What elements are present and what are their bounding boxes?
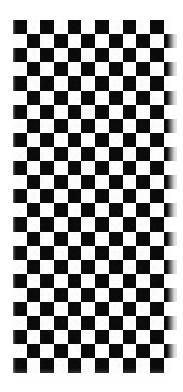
checker-cell-dark [136,344,150,358]
checker-cell-dark [136,260,150,274]
checker-cell-light [40,62,54,76]
checker-cell-light [13,175,27,189]
checker-cell-light [54,302,68,316]
checker-cell-light [109,133,123,147]
checker-cell-light [164,274,178,288]
checker-cell-light [136,358,150,372]
checker-cell-light [95,260,109,274]
checker-cell-light [150,288,164,302]
checker-cell-light [123,203,137,217]
checker-cell-light [27,302,41,316]
checker-cell-light [40,34,54,48]
checker-cell-light [81,246,95,260]
checker-cell-light [13,62,27,76]
checker-cell-dark [54,62,68,76]
checker-cell-dark [81,119,95,133]
checker-cell-light [95,62,109,76]
checker-cell-light [123,119,137,133]
checker-cell-light [123,175,137,189]
checker-cell-dark [95,330,109,344]
checker-cell-dark [150,20,164,34]
checker-cell-dark [164,175,178,189]
checker-cell-dark [123,161,137,175]
checker-cell-dark [164,119,178,133]
checker-cell-light [68,119,82,133]
checker-cell-dark [54,119,68,133]
checker-cell-light [136,302,150,316]
checker-cell-dark [123,76,137,90]
checker-cell-light [27,358,41,372]
checker-cell-light [109,76,123,90]
checker-cell-dark [68,76,82,90]
checker-cell-light [27,330,41,344]
checker-cell-light [40,232,54,246]
checker-cell-dark [54,288,68,302]
checker-cell-dark [123,189,137,203]
checker-cell-light [164,217,178,231]
checker-cell-dark [40,358,54,372]
checker-cell-light [27,217,41,231]
checker-cell-light [123,62,137,76]
checker-cell-light [164,76,178,90]
checker-cell-dark [95,105,109,119]
checker-cell-light [164,133,178,147]
checker-cell-dark [27,91,41,105]
checker-cell-light [95,288,109,302]
checker-cell-dark [136,203,150,217]
checker-cell-dark [13,76,27,90]
checker-cell-dark [109,316,123,330]
top-haze [0,0,183,20]
checker-cell-light [109,189,123,203]
checker-cell-dark [13,189,27,203]
checker-cell-light [136,105,150,119]
checker-cell-light [95,91,109,105]
checker-cell-light [95,232,109,246]
checker-cell-light [123,232,137,246]
checker-cell-dark [136,175,150,189]
checker-cell-dark [123,20,137,34]
checker-cell-light [109,358,123,372]
checker-cell-dark [27,288,41,302]
checker-cell-dark [95,48,109,62]
checker-cell-dark [13,246,27,260]
checker-cell-dark [81,34,95,48]
checker-cell-light [27,189,41,203]
checker-cell-dark [27,119,41,133]
checker-cell-light [123,91,137,105]
checker-cell-dark [54,91,68,105]
checker-cell-light [13,260,27,274]
checker-cell-light [164,189,178,203]
checker-cell-light [150,260,164,274]
checker-cell-dark [68,246,82,260]
checker-cell-light [95,203,109,217]
checker-cell-light [95,119,109,133]
checker-cell-dark [109,91,123,105]
checker-cell-light [136,189,150,203]
checker-cell-dark [54,175,68,189]
checker-cell-light [54,330,68,344]
checker-cell-dark [123,133,137,147]
checker-cell-light [109,105,123,119]
checker-cell-light [81,20,95,34]
checker-cell-light [54,217,68,231]
checker-cell-light [136,20,150,34]
checker-cell-dark [150,358,164,372]
checker-cell-dark [40,48,54,62]
checker-cell-dark [27,147,41,161]
checker-cell-light [68,344,82,358]
checker-cell-light [109,48,123,62]
checker-cell-dark [136,62,150,76]
checker-cell-light [150,175,164,189]
checker-cell-light [68,203,82,217]
checker-cell-dark [109,232,123,246]
checker-cell-light [136,274,150,288]
checker-cell-dark [40,161,54,175]
checker-cell-dark [109,119,123,133]
checker-cell-light [54,161,68,175]
checker-cell-light [109,302,123,316]
checker-cell-light [81,48,95,62]
checker-cell-light [54,48,68,62]
checker-cell-light [136,48,150,62]
checker-cell-light [13,34,27,48]
checker-cell-dark [13,217,27,231]
